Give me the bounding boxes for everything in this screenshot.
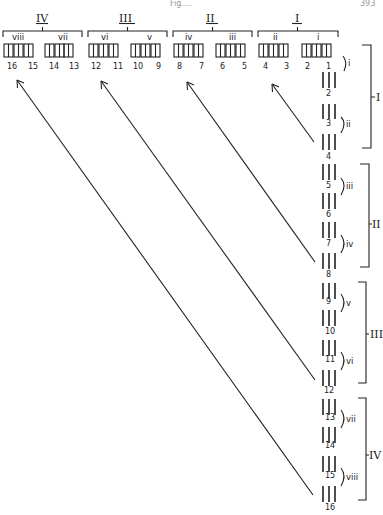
chromosome-number: 11 [325,355,335,364]
right-group-II: 5 iii 6 7 iv 8 II [323,164,381,279]
pair-label: iii [346,181,353,191]
top-numbers: 16 15 14 13 12 11 10 9 8 7 6 5 4 3 2 1 [7,62,331,71]
group-label: II [372,218,381,231]
pair-label: vi [346,356,353,366]
chromosome-number: 3 [326,119,331,128]
right-column: i 2 3 ii 4 I 5 iii 6 7 [323,45,383,512]
subgroup-label: v [147,32,152,42]
right-group-III: 9 v 10 11 vi 12 III [323,282,383,395]
chromosome-number: 9 [326,297,331,306]
chromosome-number: 16 [325,503,335,512]
pair-label: viii [346,472,358,482]
chromosome-number: 10 [133,62,143,71]
top-group-IV: IV viii vii [3,12,82,42]
subgroup-label: iii [229,32,236,42]
subgroup-label: i [317,32,319,42]
chromosome-number: 7 [199,62,204,71]
group-label: III [370,328,383,341]
top-chromosome-boxes [4,44,331,57]
pair-label: v [346,298,351,308]
chromosome-number: 7 [326,239,331,248]
chromosome-number: 3 [284,62,289,71]
arrows [17,80,315,495]
arrow-16 [17,80,313,495]
chromosome-number: 6 [326,210,331,219]
chromosome-number: 4 [326,152,331,161]
pair-label: i [348,58,350,68]
arrow-4 [272,84,314,142]
right-group-I: i 2 3 ii 4 I [323,45,380,161]
chromosome-number: 12 [91,62,101,71]
chromosome-number: 14 [49,62,59,71]
top-group-III: III vi v [88,12,167,42]
chromosome-number: 8 [326,270,331,279]
page-number: 393 [360,0,375,8]
pair-label: vii [346,414,356,424]
subgroup-label: vii [58,32,68,42]
figure-caption: Fig.... [170,0,192,8]
chromosome-diagram: Fig.... 393 IV viii vii III vi v II iv i… [0,0,383,515]
chromosome-number: 12 [324,386,334,395]
chromosome-number: 16 [7,62,17,71]
arrow-8 [187,82,315,262]
group-label: I [376,91,380,104]
pair-label: iv [346,239,353,249]
chromosome-number: 13 [69,62,79,71]
chromosome-number: 6 [220,62,225,71]
chromosome-number: 11 [113,62,123,71]
chromosome-number: 5 [326,181,331,190]
subgroup-label: viii [12,32,24,42]
chromosome-number: 5 [242,62,247,71]
arrow-12 [101,81,315,380]
chromosome-number: 15 [28,62,38,71]
right-group-IV: 13 vii 14 15 viii 16 IV [323,398,382,512]
subgroup-label: iv [185,32,192,42]
chromosome-number: 4 [263,62,268,71]
chromosome-number: 14 [325,441,335,450]
top-group-I: I ii i [258,12,338,42]
chromosome-number: 2 [305,62,310,71]
chromosome-number: 1 [326,62,331,71]
pair-label: ii [346,119,351,129]
group-label: IV [369,449,382,462]
subgroup-label: vi [101,32,108,42]
chromosome-number: 9 [156,62,161,71]
chromosome-number: 8 [177,62,182,71]
chromosome-number: 15 [325,471,335,480]
top-group-II: II iv iii [173,12,252,42]
chromosome-number: 13 [325,413,335,422]
chromosome-number: 2 [326,89,331,98]
chromosome-number: 10 [325,327,335,336]
subgroup-label: ii [273,32,278,42]
